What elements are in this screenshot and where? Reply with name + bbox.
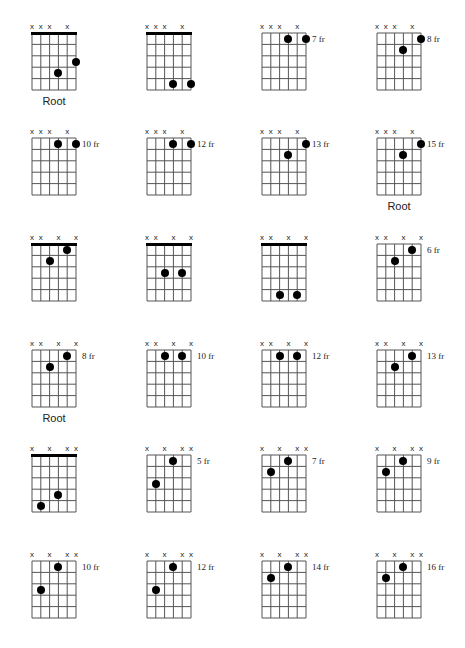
muted-string-icon: x bbox=[145, 340, 149, 348]
muted-string-icon: x bbox=[163, 551, 167, 559]
fretboard-grid bbox=[31, 243, 95, 320]
fret-position-label: 14 fr bbox=[312, 562, 329, 572]
muted-string-icon: x bbox=[189, 551, 193, 559]
muted-string-icon: x bbox=[39, 128, 43, 136]
muted-string-icon: x bbox=[269, 23, 273, 31]
muted-string-icon: x bbox=[48, 551, 52, 559]
finger-dot bbox=[152, 586, 160, 594]
muted-string-icon: x bbox=[163, 128, 167, 136]
finger-dot bbox=[169, 563, 177, 571]
finger-dot bbox=[37, 586, 45, 594]
muted-string-icon: x bbox=[410, 551, 414, 559]
muted-string-icon: x bbox=[278, 128, 282, 136]
muted-string-icon: x bbox=[39, 340, 43, 348]
muted-string-icon: x bbox=[393, 128, 397, 136]
finger-dot bbox=[187, 80, 195, 88]
muted-string-icon: x bbox=[260, 551, 264, 559]
muted-string-icon: x bbox=[375, 23, 379, 31]
finger-dot bbox=[276, 352, 284, 360]
finger-dot bbox=[178, 352, 186, 360]
muted-string-icon: x bbox=[48, 23, 52, 31]
muted-string-icon: x bbox=[154, 340, 158, 348]
muted-string-icon: x bbox=[154, 234, 158, 242]
muted-string-icon: x bbox=[39, 23, 43, 31]
muted-string-icon: x bbox=[145, 551, 149, 559]
muted-string-icon: x bbox=[180, 23, 184, 31]
fret-position-label: 10 fr bbox=[82, 562, 99, 572]
finger-dot bbox=[391, 257, 399, 265]
muted-string-icon: x bbox=[419, 340, 423, 348]
chord-diagram: xxxx10 fr bbox=[139, 338, 249, 438]
muted-string-icon: x bbox=[30, 23, 34, 31]
muted-string-icon: x bbox=[304, 340, 308, 348]
muted-string-icon: x bbox=[419, 551, 423, 559]
root-label: Root bbox=[32, 95, 76, 107]
fret-position-label: 10 fr bbox=[82, 139, 99, 149]
finger-dot bbox=[417, 35, 425, 43]
muted-string-icon: x bbox=[278, 445, 282, 453]
muted-string-icon: x bbox=[295, 128, 299, 136]
chord-diagram: xxxx5 fr bbox=[139, 443, 249, 543]
chord-diagram: xxxx15 frRoot bbox=[369, 126, 465, 226]
finger-dot bbox=[302, 140, 310, 148]
fret-position-label: 8 fr bbox=[82, 351, 95, 361]
muted-string-icon: x bbox=[419, 445, 423, 453]
finger-dot bbox=[169, 80, 177, 88]
muted-string-icon: x bbox=[145, 445, 149, 453]
chord-diagram: xxxx16 fr bbox=[369, 549, 465, 648]
fretboard-grid bbox=[146, 32, 210, 109]
root-label: Root bbox=[377, 200, 421, 212]
finger-dot bbox=[72, 58, 80, 66]
muted-string-icon: x bbox=[171, 340, 175, 348]
fret-position-label: 10 fr bbox=[197, 351, 214, 361]
chord-diagram: xxxxRoot bbox=[24, 21, 134, 121]
muted-string-icon: x bbox=[189, 445, 193, 453]
muted-string-icon: x bbox=[163, 23, 167, 31]
finger-dot bbox=[169, 140, 177, 148]
finger-dot bbox=[399, 46, 407, 54]
muted-string-icon: x bbox=[375, 551, 379, 559]
nut-bar bbox=[146, 32, 192, 35]
chord-diagram: xxxx9 fr bbox=[369, 443, 465, 543]
muted-string-icon: x bbox=[295, 23, 299, 31]
muted-string-icon: x bbox=[295, 445, 299, 453]
finger-dot bbox=[399, 563, 407, 571]
chord-diagram: xxxx13 fr bbox=[254, 126, 364, 226]
fret-position-label: 6 fr bbox=[427, 245, 440, 255]
fretboard-grid bbox=[146, 243, 210, 320]
fret-position-label: 7 fr bbox=[312, 34, 325, 44]
muted-string-icon: x bbox=[65, 128, 69, 136]
muted-string-icon: x bbox=[260, 234, 264, 242]
finger-dot bbox=[293, 352, 301, 360]
chord-diagram: xxxx bbox=[139, 232, 249, 332]
muted-string-icon: x bbox=[180, 551, 184, 559]
muted-string-icon: x bbox=[375, 234, 379, 242]
chord-diagram: xxxx bbox=[254, 232, 364, 332]
finger-dot bbox=[276, 291, 284, 299]
finger-dot bbox=[72, 140, 80, 148]
fret-position-label: 9 fr bbox=[427, 456, 440, 466]
finger-dot bbox=[152, 480, 160, 488]
muted-string-icon: x bbox=[30, 445, 34, 453]
muted-string-icon: x bbox=[65, 445, 69, 453]
chord-diagram: xxxx14 fr bbox=[254, 549, 364, 648]
muted-string-icon: x bbox=[48, 445, 52, 453]
muted-string-icon: x bbox=[384, 128, 388, 136]
muted-string-icon: x bbox=[145, 23, 149, 31]
finger-dot bbox=[382, 468, 390, 476]
muted-string-icon: x bbox=[30, 128, 34, 136]
muted-string-icon: x bbox=[393, 551, 397, 559]
chord-diagram: xxxx8 fr bbox=[369, 21, 465, 121]
nut-bar bbox=[31, 32, 77, 35]
finger-dot bbox=[417, 140, 425, 148]
finger-dot bbox=[54, 491, 62, 499]
muted-string-icon: x bbox=[189, 340, 193, 348]
fret-position-label: 12 fr bbox=[197, 562, 214, 572]
muted-string-icon: x bbox=[171, 234, 175, 242]
chord-diagram: xxxx10 fr bbox=[24, 549, 134, 648]
finger-dot bbox=[302, 35, 310, 43]
fret-position-label: 13 fr bbox=[312, 139, 329, 149]
finger-dot bbox=[399, 151, 407, 159]
muted-string-icon: x bbox=[30, 340, 34, 348]
muted-string-icon: x bbox=[163, 445, 167, 453]
